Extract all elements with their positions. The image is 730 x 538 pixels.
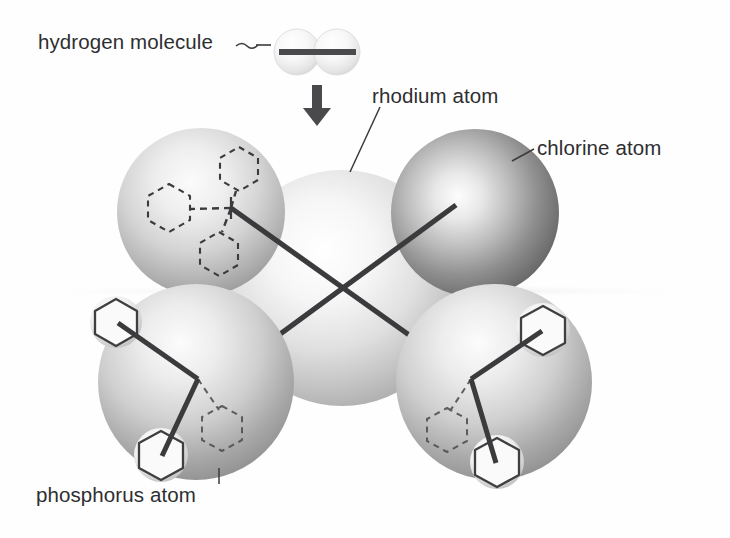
phosphorus-atom-lower-left [90,284,294,482]
phenyl-ring-solid-upper [516,303,570,357]
diagram-canvas [0,0,730,538]
leader-rhodium [350,107,380,172]
phosphorus-atom-upper-left [117,128,285,296]
label-hydrogen-molecule: hydrogen molecule [38,30,213,54]
label-phosphorus-atom: phosphorus atom [36,483,196,507]
approach-arrow [303,85,331,126]
phosphorus-atom-lower-right [396,284,592,489]
leader-hydrogen [236,44,271,49]
label-rhodium-atom: rhodium atom [372,84,499,108]
label-chlorine-atom: chlorine atom [537,136,661,160]
molecular-diagram: hydrogen molecule rhodium atom chlorine … [0,0,730,538]
hydrogen-molecule [274,29,360,75]
phenyl-ring-solid-upper [90,296,142,348]
chlorine-atom [391,129,559,297]
